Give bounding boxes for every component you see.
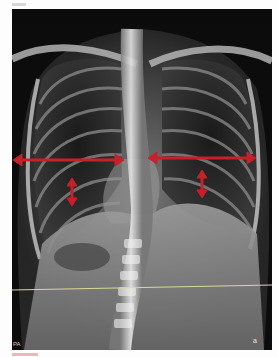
corner-label-bottom-right: a [253, 337, 257, 344]
caption-marker-bar [12, 353, 38, 356]
chest-xray-image: PA a [12, 9, 272, 350]
top-caption-mark [12, 3, 26, 6]
corner-label-bottom-left: PA [13, 341, 21, 347]
figure-page: PA a [0, 0, 278, 357]
xray-rendering [12, 9, 272, 350]
